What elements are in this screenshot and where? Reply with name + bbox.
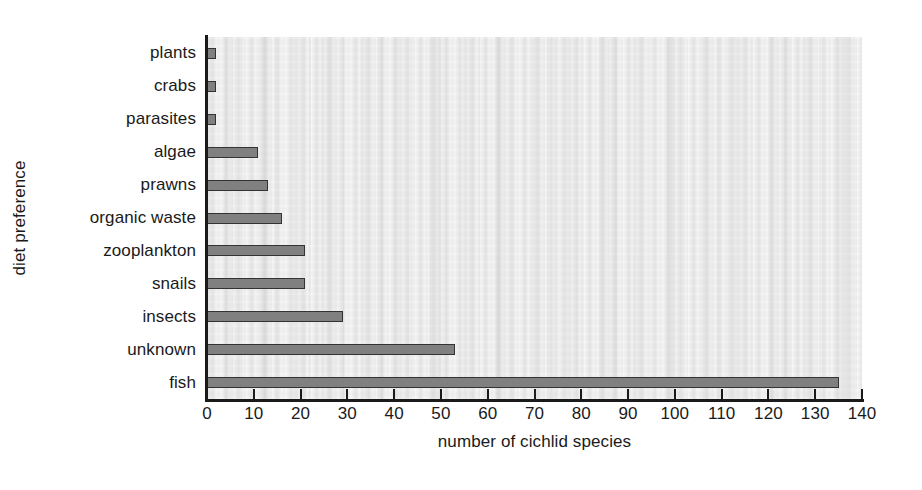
- bar: [207, 344, 455, 355]
- bar: [207, 278, 305, 289]
- y-axis-title: diet preference: [0, 37, 40, 399]
- x-tick-label: 100: [661, 403, 690, 425]
- x-tick-label: 40: [385, 403, 404, 425]
- x-tick-label: 90: [619, 403, 638, 425]
- bar: [207, 114, 216, 125]
- category-label: organic waste: [90, 209, 196, 227]
- bar: [207, 147, 258, 158]
- x-tick-mark: [440, 389, 442, 399]
- category-label-list: plantscrabsparasitesalgaeprawnsorganic w…: [40, 37, 202, 399]
- category-label: parasites: [126, 110, 196, 128]
- category-label: plants: [150, 44, 196, 62]
- bar: [207, 180, 268, 191]
- category-label: prawns: [141, 176, 196, 194]
- x-tick-mark: [674, 389, 676, 399]
- category-label: fish: [169, 374, 196, 392]
- x-axis-tick-marks: [207, 389, 862, 399]
- x-tick-label: 80: [572, 403, 591, 425]
- bar: [207, 377, 839, 388]
- bar: [207, 311, 343, 322]
- category-label: insects: [142, 308, 196, 326]
- x-tick-mark: [206, 389, 208, 399]
- x-tick-mark: [721, 389, 723, 399]
- x-tick-mark: [627, 389, 629, 399]
- x-axis-line: [205, 399, 864, 402]
- category-label: crabs: [154, 77, 196, 95]
- plot-area: [207, 37, 862, 399]
- y-axis-line: [205, 35, 208, 401]
- bar: [207, 213, 282, 224]
- x-tick-label: 140: [848, 403, 877, 425]
- x-tick-label: 110: [708, 403, 735, 425]
- x-tick-label: 20: [291, 403, 310, 425]
- x-tick-mark: [346, 389, 348, 399]
- x-tick-mark: [487, 389, 489, 399]
- x-tick-mark: [253, 389, 255, 399]
- x-axis-title: number of cichlid species: [207, 432, 862, 452]
- x-tick-mark: [861, 389, 863, 399]
- y-axis-title-label: diet preference: [10, 161, 30, 276]
- x-tick-mark: [393, 389, 395, 399]
- category-label: snails: [152, 275, 196, 293]
- x-tick-mark: [300, 389, 302, 399]
- category-label: zooplankton: [103, 242, 196, 260]
- category-label: unknown: [127, 341, 196, 359]
- x-tick-label: 60: [478, 403, 497, 425]
- bar: [207, 81, 216, 92]
- x-tick-mark: [534, 389, 536, 399]
- x-tick-label: 120: [754, 403, 783, 425]
- x-tick-mark: [814, 389, 816, 399]
- bar: [207, 245, 305, 256]
- x-tick-label: 50: [431, 403, 450, 425]
- x-tick-label: 0: [202, 403, 212, 425]
- x-axis-tick-labels: 0102030405060708090100110120130140: [207, 403, 862, 427]
- x-tick-mark: [580, 389, 582, 399]
- x-tick-mark: [767, 389, 769, 399]
- bar: [207, 48, 216, 59]
- x-tick-label: 30: [338, 403, 357, 425]
- x-tick-label: 130: [801, 403, 830, 425]
- x-tick-label: 70: [525, 403, 544, 425]
- bar-chart: diet preference plantscrabsparasitesalga…: [0, 0, 922, 490]
- x-tick-label: 10: [244, 403, 263, 425]
- category-label: algae: [154, 143, 196, 161]
